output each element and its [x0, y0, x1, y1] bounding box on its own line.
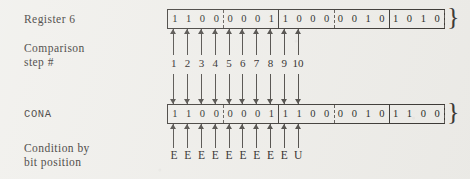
arrow-head-icon: [212, 99, 218, 104]
bit-cell: 0: [334, 109, 346, 119]
bit-cell: 0: [431, 14, 443, 24]
bit-cell: 0: [210, 14, 222, 24]
arrow-head-icon: [267, 29, 273, 34]
bit-cell: 0: [307, 14, 319, 24]
comparison-arrow: [266, 124, 275, 148]
comparison-arrow: [266, 29, 275, 55]
bit-group-separator: [334, 105, 335, 123]
comparison-arrow: [225, 29, 234, 55]
bit-group: 1100: [168, 10, 223, 28]
bit-cell: 0: [252, 109, 264, 119]
label-comparison-step: Comparison step #: [24, 41, 85, 69]
bit-cell: 0: [224, 109, 236, 119]
bit-cell: 0: [376, 14, 388, 24]
condition-letter: U: [291, 149, 305, 162]
bit-cell: 0: [431, 109, 443, 119]
bit-group-separator: [389, 105, 390, 123]
arrow-head-icon: [226, 124, 232, 129]
comparison-arrow: [183, 29, 192, 55]
bit-cell: 1: [417, 14, 429, 24]
cona-continuation-brace: }: [447, 102, 461, 122]
bit-cell: 0: [224, 14, 236, 24]
bit-group-separator: [223, 10, 224, 28]
bit-cell: 1: [279, 14, 291, 24]
arrow-head-icon: [239, 124, 245, 129]
comparison-arrow: [183, 74, 192, 104]
bit-group: 1000: [278, 10, 333, 28]
arrow-head-icon: [170, 29, 176, 34]
bit-cell: 0: [348, 14, 360, 24]
arrows-down-to-cona: [167, 74, 445, 104]
comparison-arrow: [266, 74, 275, 104]
bit-cell: 0: [210, 109, 222, 119]
bit-cell: 1: [362, 14, 374, 24]
bit-group: 0001: [223, 105, 278, 123]
bit-group: 0010: [334, 10, 389, 28]
condition-letter: E: [195, 149, 209, 162]
arrow-head-icon: [267, 99, 273, 104]
bit-group: 0010: [334, 105, 389, 123]
arrow-head-icon: [239, 99, 245, 104]
arrow-head-icon: [170, 99, 176, 104]
bit-group: 1010: [389, 10, 444, 28]
arrow-head-icon: [295, 124, 301, 129]
arrow-head-icon: [295, 29, 301, 34]
arrow-head-icon: [198, 124, 204, 129]
register-6-continuation-brace: }: [447, 7, 461, 27]
bit-cell: 0: [196, 109, 208, 119]
comparison-arrow: [294, 124, 303, 148]
arrow-head-icon: [198, 99, 204, 104]
arrow-head-icon: [253, 124, 259, 129]
bit-group: 1100: [278, 105, 333, 123]
arrow-head-icon: [281, 99, 287, 104]
label-cona: CONA: [24, 107, 52, 121]
comparison-arrow: [225, 74, 234, 104]
bit-cell: 1: [403, 109, 415, 119]
bit-group-separator: [389, 10, 390, 28]
comparison-arrow: [238, 74, 247, 104]
condition-letter: E: [222, 149, 236, 162]
arrow-head-icon: [212, 29, 218, 34]
comparison-arrow: [280, 124, 289, 148]
condition-letter-row: EEEEEEEEEU: [167, 149, 445, 163]
bit-cell: 0: [238, 109, 250, 119]
condition-letter: E: [250, 149, 264, 162]
bit-group-separator: [278, 105, 279, 123]
bit-cell: 0: [403, 14, 415, 24]
bit-cell: 0: [321, 14, 333, 24]
arrow-head-icon: [226, 29, 232, 34]
bit-cell: 0: [334, 14, 346, 24]
comparison-arrow: [252, 29, 261, 55]
bit-cell: 0: [252, 14, 264, 24]
comparison-arrow: [197, 124, 206, 148]
comparison-arrow: [252, 124, 261, 148]
bit-cell: 1: [279, 109, 291, 119]
bit-group: 1100: [389, 105, 444, 123]
arrow-head-icon: [239, 29, 245, 34]
comparison-arrow: [294, 29, 303, 55]
bit-group: 0001: [223, 10, 278, 28]
comparison-arrow: [238, 29, 247, 55]
condition-letter: E: [167, 149, 181, 162]
step-number: 10: [289, 57, 307, 70]
comparison-arrow: [183, 124, 192, 148]
bit-cell: 0: [321, 109, 333, 119]
arrow-head-icon: [184, 29, 190, 34]
comparison-arrow: [169, 74, 178, 104]
bit-cell: 1: [183, 14, 195, 24]
comparison-arrow: [294, 74, 303, 104]
bit-cell: 1: [169, 109, 181, 119]
bit-cell: 0: [293, 14, 305, 24]
bit-group-separator: [334, 10, 335, 28]
bit-cell: 1: [265, 14, 277, 24]
arrows-up-to-register-6: [167, 29, 445, 55]
bit-cell: 0: [348, 109, 360, 119]
comparison-arrow: [211, 124, 220, 148]
condition-letter: E: [181, 149, 195, 162]
bit-group: 1100: [168, 105, 223, 123]
comparison-arrow: [238, 124, 247, 148]
comparison-arrow: [211, 74, 220, 104]
bit-group-separator: [223, 105, 224, 123]
bit-cell: 0: [307, 109, 319, 119]
register-6-box: 11000001100000101010: [167, 9, 445, 29]
